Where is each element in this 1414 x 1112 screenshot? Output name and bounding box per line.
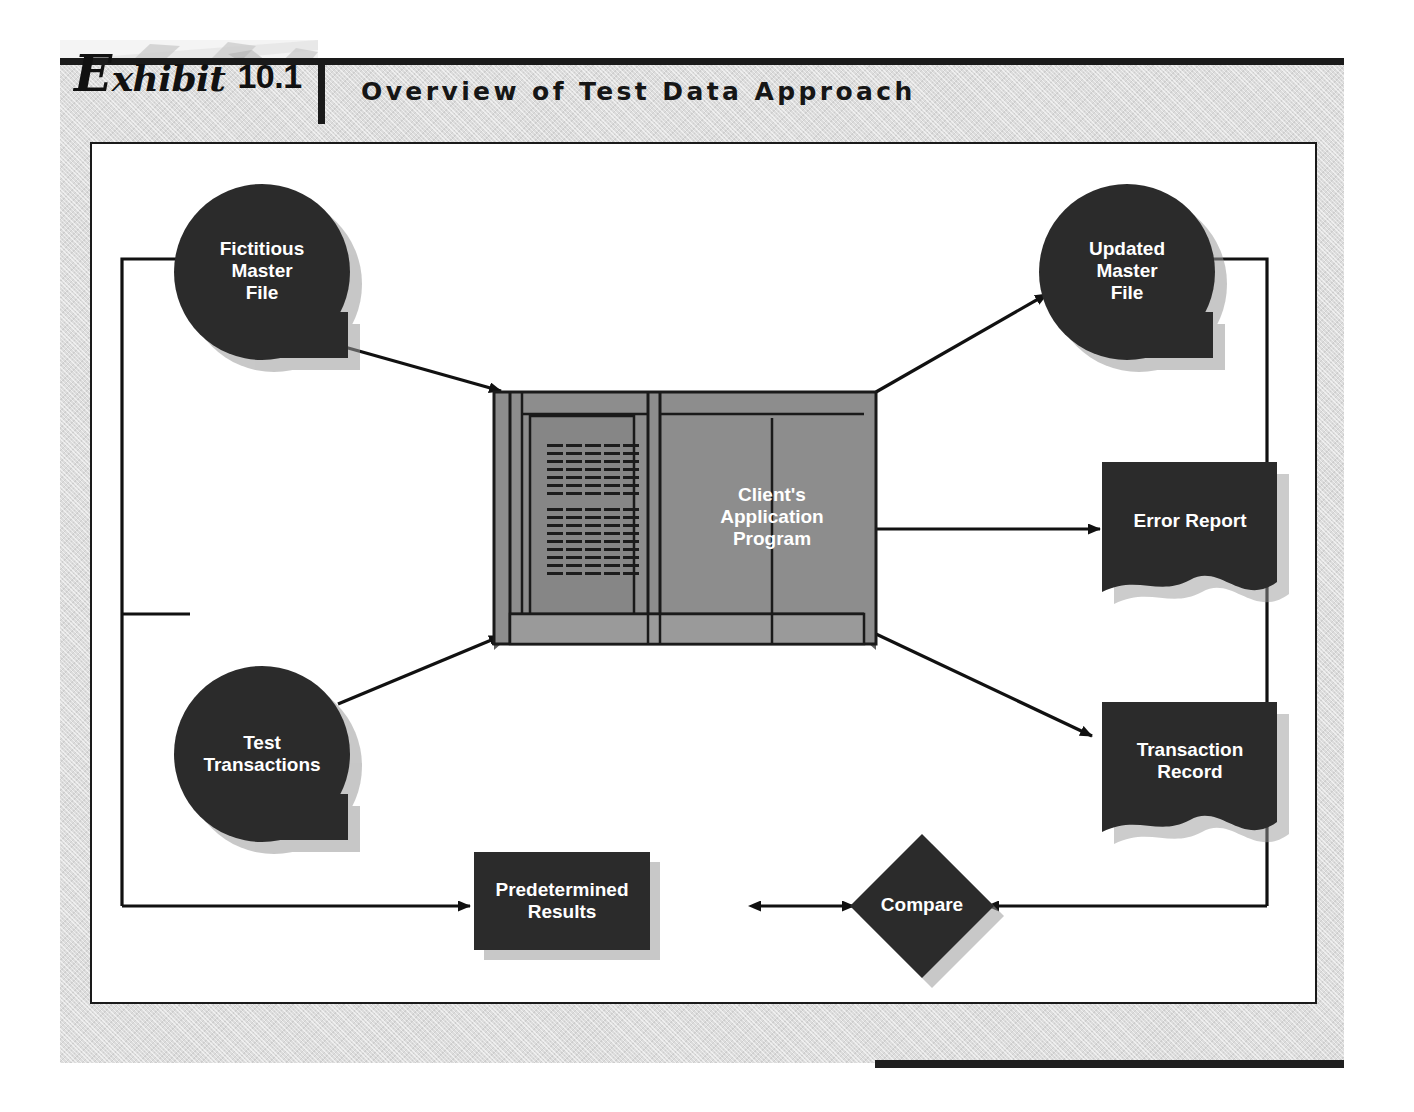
edge-computer-to-updated-master-file [876,294,1047,392]
diagram-canvas: Fictitious Master File Test Transactions… [90,142,1317,1004]
panel-bottom-rule [875,1060,1344,1068]
diagram-svg [92,144,1315,1002]
node-error-report [1102,462,1289,604]
exhibit-page: Exhibit 10.1 Overview of Test Data Appro… [0,0,1414,1112]
exhibit-label: Exhibit 10.1 [74,48,324,104]
left-bus-top-branch [122,259,190,906]
disk-tab-fictitious [262,312,348,358]
document-shape-transaction-record [1102,702,1277,832]
disk-tab-test-transactions [262,794,348,840]
disk-tab-updated [1127,312,1213,358]
edge-fictitious-to-computer [341,346,501,391]
node-transaction-record [1102,702,1289,844]
node-fictitious-master-file [174,184,362,372]
exhibit-number: 10.1 [237,57,301,96]
edge-test-transactions-to-computer [338,636,501,704]
exhibit-word-rest: xhibit [112,57,226,99]
edge-computer-to-transaction-record [876,634,1092,736]
node-clients-application-program [494,392,876,650]
node-predetermined-results [474,852,660,960]
node-compare [850,834,1004,988]
document-shape-error-report [1102,462,1277,592]
node-updated-master-file [1039,184,1227,372]
exhibit-word: Exhibit [74,54,225,99]
page-title: Overview of Test Data Approach [361,77,916,106]
exhibit-word-initial: E [74,44,112,103]
rect-predetermined-results [474,852,650,950]
title-bar: Overview of Test Data Approach [318,58,1344,124]
diamond-compare [850,834,994,978]
node-test-transactions [174,666,362,854]
computer-plinth [510,614,864,644]
